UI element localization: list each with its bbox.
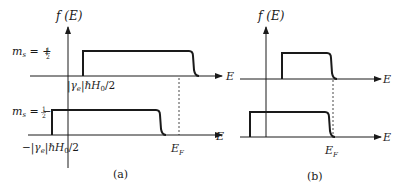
- fermi-distribution-diagram: f (E) E ms = + 1 2 |γe|ℏH0/2 E ms = − 1 …: [0, 0, 394, 191]
- caption-b: (b): [307, 170, 323, 183]
- upper-step-start-label: |γe|ℏH0/2: [67, 79, 115, 93]
- spin-down-fraction-den: 2: [42, 112, 46, 119]
- upper-step-curve-b: [282, 53, 337, 79]
- upper-step-curve-a: [83, 51, 199, 76]
- caption-a: (a): [113, 168, 128, 181]
- x-axis-label-b-upper: E: [382, 73, 391, 86]
- x-axis-label-b-lower: E: [382, 131, 391, 144]
- x-axis-label-a-lower: E: [215, 130, 224, 143]
- spin-up-fraction: 1: [46, 46, 50, 53]
- y-axis-label-a: f (E): [55, 9, 83, 23]
- figure-b: f (E) E E EF (b): [240, 9, 391, 183]
- spin-up-fraction-den: 2: [46, 53, 50, 60]
- x-axis-label-a-upper: E: [225, 70, 234, 83]
- y-axis-label-b: f (E): [257, 9, 285, 23]
- figure-a: f (E) E ms = + 1 2 |γe|ℏH0/2 E ms = − 1 …: [12, 9, 234, 181]
- lower-step-curve-b: [250, 112, 335, 137]
- fermi-energy-label-b: EF: [324, 144, 339, 159]
- spin-down-fraction: 1: [42, 105, 46, 112]
- lower-step-start-label: −|γe|ℏH0/2: [22, 141, 79, 155]
- lower-step-curve-a: [52, 110, 166, 135]
- fermi-energy-label-a: EF: [170, 142, 185, 157]
